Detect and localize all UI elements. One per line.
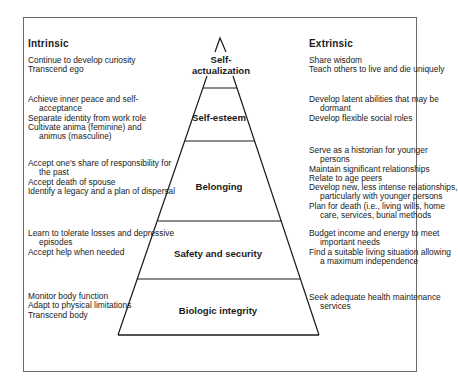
list-item: Teach others to live and die uniquely xyxy=(309,65,444,74)
list-item: services xyxy=(309,302,441,311)
extrinsic-heading: Extrinsic xyxy=(309,38,353,49)
intrinsic-belonging: Accept one's share of responsibility for… xyxy=(28,159,175,196)
extrinsic-biologic-integrity: Seek adequate health maintenanceservices xyxy=(309,293,441,312)
extrinsic-self-esteem: Develop latent abilities that may bedorm… xyxy=(309,95,439,123)
list-item: care, services, burial methods xyxy=(309,211,458,220)
intrinsic-biologic-integrity: Monitor body functionAdapt to physical l… xyxy=(28,292,131,320)
list-item: Develop flexible social roles xyxy=(309,114,439,123)
extrinsic-safety-security: Budget income and energy to meetimportan… xyxy=(309,229,451,266)
list-item: Transcend body xyxy=(28,311,131,320)
tier-label-biologic-integrity: Biologic integrity xyxy=(179,305,257,316)
list-item: Identify a legacy and a plan of dispersa… xyxy=(28,187,175,196)
intrinsic-safety-security: Learn to tolerate losses and depressivee… xyxy=(28,229,174,257)
extrinsic-self-actualization: Share wisdomTeach others to live and die… xyxy=(309,56,444,75)
list-item: Accept help when needed xyxy=(28,248,174,257)
tier-label-line: Self- xyxy=(192,54,250,65)
tier-label-self-actualization: Self- actualization xyxy=(192,54,250,76)
tier-label-safety-security: Safety and security xyxy=(174,248,262,259)
pyramid-apex xyxy=(215,38,226,52)
tier-label-belonging: Belonging xyxy=(196,181,243,192)
intrinsic-self-actualization: Continue to develop curiosityTranscend e… xyxy=(28,56,136,75)
extrinsic-belonging: Serve as a historian for youngerpersonsM… xyxy=(309,146,458,220)
intrinsic-heading: Intrinsic xyxy=(28,38,69,49)
list-item: animus (masculine) xyxy=(28,132,146,141)
tier-label-line: actualization xyxy=(192,65,250,76)
list-item: Transcend ego xyxy=(28,65,136,74)
list-item: a maximum independence xyxy=(309,257,451,266)
tier-label-self-esteem: Self-esteem xyxy=(192,112,246,123)
intrinsic-self-esteem: Achieve inner peace and self-acceptanceS… xyxy=(28,95,146,141)
